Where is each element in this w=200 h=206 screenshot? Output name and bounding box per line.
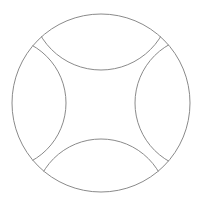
left-arc	[0, 37, 66, 169]
inner-arcs	[0, 0, 200, 206]
outer-circle	[12, 14, 190, 192]
top-arc	[31, 0, 171, 70]
bottom-arc	[34, 139, 168, 206]
diagram-canvas	[0, 0, 200, 206]
